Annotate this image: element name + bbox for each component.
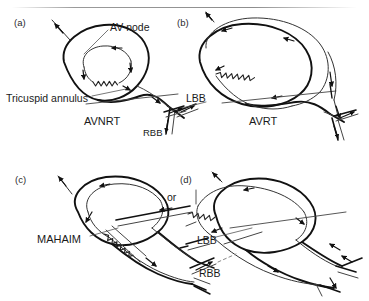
panel-letter-a: (a): [14, 18, 26, 28]
diagram-linework: [0, 0, 369, 301]
lbb-label-panel-b: LBB: [186, 93, 206, 104]
figure-panel-container: (a) (b) (c) (d) AV node Tricuspid annulu…: [0, 0, 369, 301]
panel-b-diagnosis-label: AVRT: [249, 116, 277, 127]
rbb-label-panel-a: RBB: [143, 128, 163, 138]
panel-letter-d: (d): [180, 175, 192, 185]
panel-a-diagnosis-label: AVNRT: [84, 116, 120, 127]
mahaim-label: MAHAIM: [37, 234, 81, 245]
panel-letter-c: (c): [15, 175, 26, 185]
rbb-label-panel-d: RBB: [199, 268, 221, 279]
tricuspid-annulus-label: Tricuspid annulus: [6, 93, 88, 104]
av-node-label: AV node: [110, 22, 150, 33]
panel-letter-b: (b): [177, 18, 189, 28]
lbb-label-panel-d: LBB: [197, 235, 217, 246]
or-conjunction-label: or: [167, 192, 176, 203]
